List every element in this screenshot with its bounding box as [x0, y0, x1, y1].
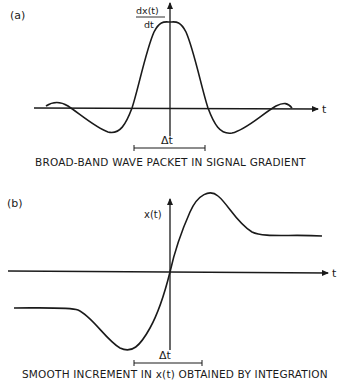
- panel-a-caption: BROAD-BAND WAVE PACKET IN SIGNAL GRADIEN…: [35, 156, 306, 168]
- x-axis-label: t: [332, 267, 337, 280]
- x-axis: [34, 108, 318, 109]
- panel-b-caption: SMOOTH INCREMENT IN x(t) OBTAINED BY INT…: [22, 368, 328, 380]
- panel-a: (a) t dx(t) dt Δt BROAD-BAND WAVE PACKET…: [10, 3, 327, 168]
- y-axis-label-numerator: dx(t): [136, 5, 159, 16]
- interval-label: Δt: [161, 134, 174, 147]
- figure: (a) t dx(t) dt Δt BROAD-BAND WAVE PACKET…: [0, 0, 338, 380]
- panel-a-label: (a): [10, 9, 25, 22]
- y-axis-label: x(t): [144, 209, 162, 220]
- x-axis: [8, 271, 328, 273]
- panel-b: (b) t x(t) Δt SMOOTH INCREMENT IN x(t) O…: [7, 193, 337, 380]
- panel-b-label: (b): [7, 197, 23, 210]
- y-axis-label-denominator: dt: [144, 19, 154, 30]
- interval-label: Δt: [159, 349, 172, 362]
- x-axis-label: t: [322, 103, 327, 116]
- wave-packet-curve: [46, 22, 292, 133]
